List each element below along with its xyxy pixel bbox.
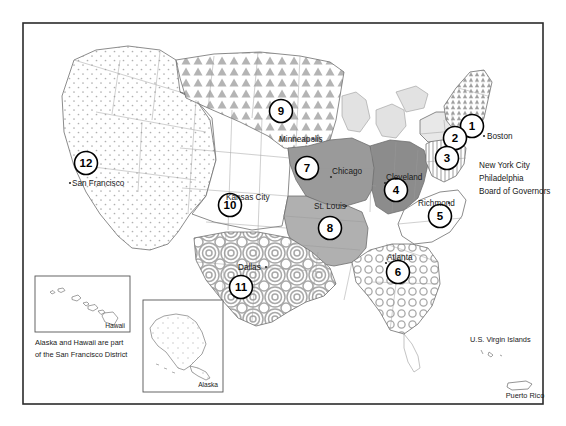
district-marker-12[interactable]: 12 xyxy=(75,152,98,175)
city-dot-boston xyxy=(483,135,485,137)
hq-label-philadelphia: Philadelphia xyxy=(479,174,524,183)
city-label-cleveland: Cleveland xyxy=(386,173,423,182)
inset-note-line-2: of the San Francisco District xyxy=(35,350,127,359)
city-dot-minneapolis xyxy=(312,138,314,140)
district-marker-3[interactable]: 3 xyxy=(436,147,459,170)
city-label-dallas: Dallas xyxy=(238,263,261,272)
district-number-label: 6 xyxy=(395,266,401,278)
hawaii-inset-label: Hawaii xyxy=(105,322,125,329)
district-marker-11[interactable]: 11 xyxy=(230,276,253,299)
city-label-chicago: Chicago xyxy=(332,167,362,176)
city-dot-atlanta xyxy=(385,262,387,264)
district-number-label: 7 xyxy=(304,162,310,174)
territory-label-us-virgin-islands: U.S. Virgin Islands xyxy=(470,335,531,344)
district-number-label: 12 xyxy=(80,157,93,169)
alaska-inset-label: Alaska xyxy=(198,381,218,388)
city-label-atlanta: Atlanta xyxy=(387,253,413,262)
district-marker-8[interactable]: 8 xyxy=(319,217,342,240)
federal-reserve-district-map: 1 2 3 4 5 6 xyxy=(0,0,566,426)
city-dot-cleveland xyxy=(384,182,386,184)
district-number-label: 2 xyxy=(452,132,458,144)
city-label-minneapolis: Minneapolis xyxy=(279,135,323,144)
city-label-st-louis: St. Louis xyxy=(314,202,346,211)
hq-label-new-york-city: New York City xyxy=(479,161,531,170)
city-label-kansas-city: Kansas City xyxy=(226,193,271,202)
district-marker-9[interactable]: 9 xyxy=(270,100,293,123)
inset-note-line-1: Alaska and Hawaii are part xyxy=(35,338,123,347)
district-marker-6[interactable]: 6 xyxy=(387,261,410,284)
district-number-label: 8 xyxy=(327,222,334,234)
territory-label-puerto-rico: Puerto Rico xyxy=(506,391,545,400)
map-svg-canvas: 1 2 3 4 5 6 xyxy=(0,0,566,426)
city-label-san-francisco: San Francisco xyxy=(72,179,125,188)
hq-label-board-of-governors: Board of Governors xyxy=(479,187,550,196)
city-dot-san-francisco xyxy=(69,182,71,184)
city-dot-st-louis xyxy=(345,205,347,207)
hawaii-inset[interactable]: Hawaii xyxy=(35,276,130,332)
district-number-label: 4 xyxy=(393,184,400,196)
city-dot-richmond xyxy=(448,202,450,204)
district-marker-7[interactable]: 7 xyxy=(296,157,319,180)
alaska-inset[interactable]: Alaska xyxy=(143,300,223,392)
city-dot-chicago xyxy=(330,176,332,178)
district-number-label: 9 xyxy=(278,105,284,117)
district-number-label: 1 xyxy=(469,120,476,132)
district-number-label: 3 xyxy=(444,152,450,164)
city-dot-dallas xyxy=(265,266,267,268)
city-label-boston: Boston xyxy=(487,132,513,141)
district-number-label: 11 xyxy=(235,281,248,293)
district-number-label: 5 xyxy=(437,210,444,222)
